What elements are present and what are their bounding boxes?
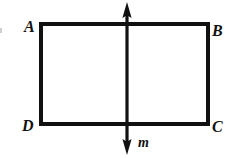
geometry-figure: A B C D m [0, 0, 245, 158]
line-label-m: m [138, 136, 149, 150]
vertex-label-a: A [24, 19, 35, 35]
vertex-label-c: C [212, 119, 223, 135]
figure-drawing [0, 0, 245, 158]
rectangle-ABCD [41, 24, 208, 124]
vertex-label-d: D [22, 118, 34, 134]
vertex-label-b: B [212, 23, 223, 39]
